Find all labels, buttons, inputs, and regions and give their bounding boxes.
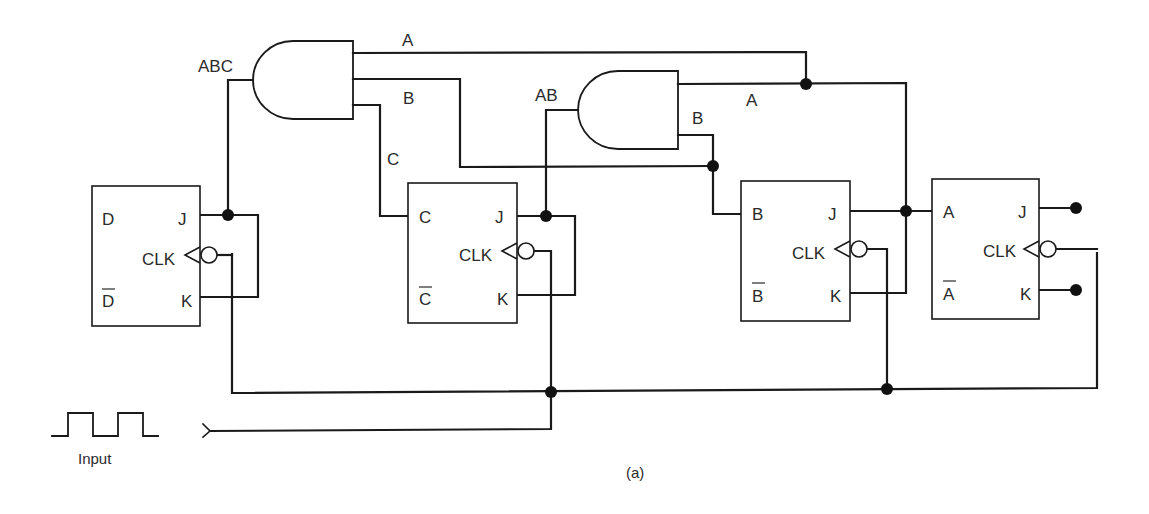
ff-q-label: A — [943, 203, 955, 222]
ffc-clk-wire — [535, 251, 551, 392]
flip-flop-a: A A J K CLK — [932, 179, 1056, 319]
ff-q-label: D — [102, 210, 114, 229]
junction-dot — [222, 209, 234, 221]
ff-clk-label: CLK — [792, 244, 826, 263]
and-gate-symbol — [578, 71, 678, 149]
ff-qbar-label: C — [419, 290, 431, 309]
input-line — [210, 392, 551, 431]
junction-dot — [545, 386, 557, 398]
negation-bubble-icon — [851, 241, 867, 257]
ff-qbar-label: A — [943, 285, 955, 304]
wire-label-a2: A — [746, 91, 758, 110]
ff-k-label: K — [830, 287, 842, 306]
wire-label-a: A — [402, 31, 414, 50]
ff-k-label: K — [1020, 285, 1032, 304]
ff-j-label: J — [495, 208, 504, 227]
gate1-c-wire — [353, 105, 408, 216]
terminal-dot — [1070, 284, 1082, 296]
ff-clk-label: CLK — [142, 250, 176, 269]
gate-output-label: AB — [535, 86, 558, 105]
ff-k-label: K — [181, 292, 193, 311]
sync-counter-diagram: Input ABC AB A B C A B — [0, 0, 1149, 514]
wire-label-b: B — [403, 89, 414, 108]
flip-flop-c: C C J K CLK — [408, 183, 534, 323]
input-arrow-icon — [203, 424, 210, 437]
flip-flop-d: D D J K CLK — [92, 186, 217, 326]
and-gate-symbol — [253, 41, 353, 119]
flip-flop-b: B B J K CLK — [741, 181, 867, 321]
ff-qbar-label: B — [752, 287, 763, 306]
wire-label-c: C — [387, 150, 399, 169]
square-wave-icon — [52, 413, 158, 436]
ff-k-label: K — [497, 290, 509, 309]
ff-j-label: J — [1018, 203, 1027, 222]
junction-dot — [800, 78, 812, 90]
input-label: Input — [78, 450, 112, 467]
junction-dot — [540, 210, 552, 222]
ff-clk-label: CLK — [983, 242, 1017, 261]
ff-q-label: B — [752, 205, 763, 224]
negation-bubble-icon — [518, 243, 534, 259]
ff-j-label: J — [828, 205, 837, 224]
gate2-b-wire — [678, 135, 741, 214]
and-gate-abc: ABC — [198, 41, 353, 119]
abc-output-wire — [228, 80, 253, 215]
ffb-clk-wire — [868, 249, 887, 389]
terminal-dot — [1070, 202, 1082, 214]
input-waveform: Input — [52, 413, 158, 467]
junction-dot — [881, 383, 893, 395]
ff-q-label: C — [419, 208, 431, 227]
wire-label-b2: B — [692, 109, 703, 128]
figure-caption: (a) — [626, 464, 644, 481]
negation-bubble-icon — [201, 247, 217, 263]
gate-output-label: ABC — [198, 57, 233, 76]
junction-dot — [900, 205, 912, 217]
negation-bubble-icon — [1040, 241, 1056, 257]
ff-j-label: J — [178, 210, 187, 229]
ff-clk-label: CLK — [459, 246, 493, 265]
ab-output-wire — [546, 110, 578, 216]
ff-qbar-label: D — [102, 292, 114, 311]
junction-dot — [707, 160, 719, 172]
